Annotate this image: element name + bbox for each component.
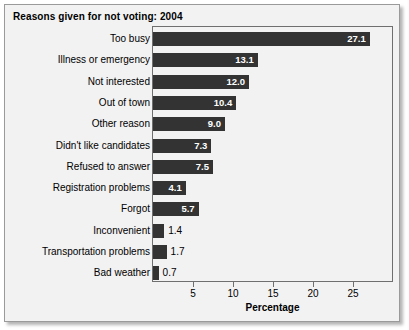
bar-value-label: 9.0 bbox=[208, 117, 221, 131]
bar-value-label: 27.1 bbox=[347, 32, 366, 46]
bar-container: 5.7 bbox=[153, 202, 199, 216]
bar-container: 7.5 bbox=[153, 160, 213, 174]
bar-row: Forgot5.7 bbox=[5, 202, 401, 216]
x-tick-label: 10 bbox=[221, 288, 245, 299]
chart-title: Reasons given for not voting: 2004 bbox=[13, 11, 183, 22]
category-label: Out of town bbox=[10, 95, 150, 110]
bar bbox=[153, 32, 370, 46]
x-tick-label: 25 bbox=[341, 288, 365, 299]
bar-row: Out of town10.4 bbox=[5, 96, 401, 110]
x-tick bbox=[233, 282, 234, 287]
bar-row: Registration problems4.1 bbox=[5, 181, 401, 195]
category-label: Other reason bbox=[10, 116, 150, 131]
x-tick bbox=[353, 282, 354, 287]
bar-container: 0.7 bbox=[153, 266, 159, 280]
bar-value-label: 4.1 bbox=[169, 181, 182, 195]
bar bbox=[153, 245, 167, 259]
x-tick bbox=[193, 282, 194, 287]
bar-value-label: 7.3 bbox=[194, 139, 207, 153]
x-tick-label: 15 bbox=[261, 288, 285, 299]
bar-row: Transportation problems1.7 bbox=[5, 245, 401, 259]
x-tick bbox=[313, 282, 314, 287]
bar-row: Illness or emergency13.1 bbox=[5, 53, 401, 67]
bar-rows: Too busy27.1Illness or emergency13.1Not … bbox=[5, 26, 401, 282]
category-label: Too busy bbox=[10, 31, 150, 46]
bar-value-label: 13.1 bbox=[235, 53, 254, 67]
category-label: Refused to answer bbox=[10, 159, 150, 174]
category-label: Inconvenient bbox=[10, 223, 150, 238]
bar-container: 12.0 bbox=[153, 75, 249, 89]
bar-value-label: 0.7 bbox=[163, 266, 177, 280]
category-label: Registration problems bbox=[10, 180, 150, 195]
category-label: Transportation problems bbox=[10, 244, 150, 259]
bar-row: Not interested12.0 bbox=[5, 75, 401, 89]
bar-row: Inconvenient1.4 bbox=[5, 224, 401, 238]
bar-value-label: 1.7 bbox=[171, 245, 185, 259]
bar bbox=[153, 266, 159, 280]
bar-value-label: 1.4 bbox=[168, 224, 182, 238]
bar-container: 10.4 bbox=[153, 96, 236, 110]
bar-value-label: 7.5 bbox=[196, 160, 209, 174]
bar-container: 13.1 bbox=[153, 53, 258, 67]
bar-value-label: 10.4 bbox=[214, 96, 233, 110]
bar bbox=[153, 224, 164, 238]
x-axis-title: Percentage bbox=[152, 302, 393, 313]
bar-row: Bad weather0.7 bbox=[5, 266, 401, 280]
category-label: Bad weather bbox=[10, 265, 150, 280]
chart-panel: Reasons given for not voting: 2004 Too b… bbox=[4, 4, 400, 322]
bar-container: 1.4 bbox=[153, 224, 164, 238]
category-label: Not interested bbox=[10, 74, 150, 89]
bar-container: 27.1 bbox=[153, 32, 370, 46]
bar-row: Other reason9.0 bbox=[5, 117, 401, 131]
bar-row: Refused to answer7.5 bbox=[5, 160, 401, 174]
bar-row: Didn't like candidates7.3 bbox=[5, 139, 401, 153]
x-tick-label: 5 bbox=[181, 288, 205, 299]
bar-container: 4.1 bbox=[153, 181, 186, 195]
category-label: Illness or emergency bbox=[10, 52, 150, 67]
bar-value-label: 12.0 bbox=[227, 75, 246, 89]
bar-container: 7.3 bbox=[153, 139, 211, 153]
x-tick bbox=[273, 282, 274, 287]
bar-container: 9.0 bbox=[153, 117, 225, 131]
bar-container: 1.7 bbox=[153, 245, 167, 259]
category-label: Didn't like candidates bbox=[10, 138, 150, 153]
x-axis-ticks: 510152025 bbox=[5, 282, 401, 302]
x-tick-label: 20 bbox=[301, 288, 325, 299]
bar-row: Too busy27.1 bbox=[5, 32, 401, 46]
bar-value-label: 5.7 bbox=[181, 202, 194, 216]
category-label: Forgot bbox=[10, 201, 150, 216]
